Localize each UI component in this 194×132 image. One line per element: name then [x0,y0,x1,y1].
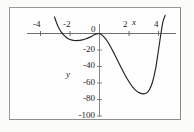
y-tick-label--60: -60 [75,78,95,87]
x-tick-label--4: -4 [33,20,41,29]
data-curve [55,15,166,94]
x-tick-label-4: 4 [154,20,159,29]
x-tick-label--2: -2 [63,20,71,29]
figure-container: -4 -2 0 2 4 x -20 -40 -60 -80 -100 y [0,0,194,132]
x-axis-label: x [132,18,136,27]
plot-canvas [0,0,194,132]
x-tick-label-0: 0 [91,25,96,34]
y-tick-label--80: -80 [75,94,95,103]
y-axis-label: y [66,70,70,79]
y-tick-label--40: -40 [75,61,95,70]
y-tick-label--20: -20 [75,45,95,54]
y-tick-label--100: -100 [70,111,95,120]
x-tick-label-2: 2 [123,20,128,29]
